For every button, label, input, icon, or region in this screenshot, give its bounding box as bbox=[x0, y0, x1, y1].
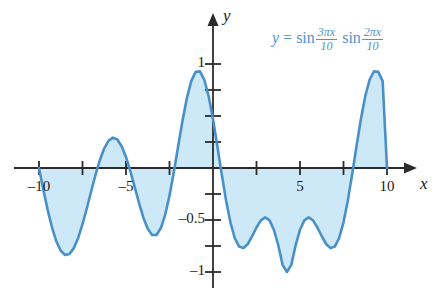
equation-lhs: y bbox=[272, 29, 279, 46]
function-graph-figure: y = sin3πx10 sin2πx10 –10–55101–0.5–1 x … bbox=[0, 0, 440, 296]
equation-equals: = bbox=[283, 29, 292, 46]
equation-annotation: y = sin3πx10 sin2πx10 bbox=[272, 26, 384, 53]
x-tick-label: 5 bbox=[286, 178, 314, 195]
equation-numerator-2: 2πx bbox=[362, 26, 383, 40]
y-tick-label: –1 bbox=[161, 262, 205, 279]
equation-sin-2: sin bbox=[342, 29, 361, 46]
x-axis-arrowhead bbox=[404, 163, 417, 174]
x-axis-label: x bbox=[420, 174, 428, 194]
equation-fraction-1: 3πx10 bbox=[316, 26, 337, 53]
equation-fraction-2: 2πx10 bbox=[362, 26, 383, 53]
x-tick-label: –5 bbox=[112, 178, 140, 195]
x-tick-label: –10 bbox=[25, 178, 53, 195]
equation-denominator-1: 10 bbox=[316, 40, 337, 53]
equation-denominator-2: 10 bbox=[362, 40, 383, 53]
equation-sin-1: sin bbox=[296, 29, 315, 46]
equation-numerator-1: 3πx bbox=[316, 26, 337, 40]
y-tick-label: –0.5 bbox=[161, 210, 205, 227]
y-axis-arrowhead bbox=[208, 13, 219, 26]
y-axis-label: y bbox=[223, 6, 231, 26]
x-tick-label: 10 bbox=[373, 178, 401, 195]
y-tick-label: 1 bbox=[161, 54, 205, 71]
